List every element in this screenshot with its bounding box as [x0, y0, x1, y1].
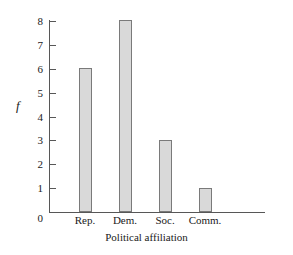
- y-axis-label-4-text: 4: [29, 112, 43, 123]
- bar-chart-figure: f 0 8 7 6 5 4 3 2 1 Rep. Dem. Soc. Comm.…: [0, 0, 293, 255]
- y-axis-label-8-text: 8: [29, 16, 43, 27]
- x-axis-line: [49, 212, 265, 213]
- y-axis-label-5-text: 5: [29, 88, 43, 99]
- y-axis-label-2: 2: [26, 159, 43, 170]
- y-axis-title: f: [16, 99, 20, 112]
- y-axis-label-3-text: 3: [29, 135, 43, 146]
- y-axis-label-7-text: 7: [29, 40, 43, 51]
- x-axis-label-comm: Comm.: [178, 214, 232, 226]
- x-axis-title: Political affiliation: [0, 231, 293, 243]
- bar-comm: [199, 188, 212, 212]
- y-axis-label-6-text: 6: [29, 64, 43, 75]
- y-axis-label-5: 5: [26, 88, 43, 99]
- y-axis-label-1: 1: [26, 183, 43, 194]
- bar-dem: [119, 20, 132, 212]
- y-axis-label-4: 4: [26, 112, 43, 123]
- plot-area: [49, 20, 265, 212]
- y-axis-origin-label: 0: [26, 213, 43, 224]
- y-axis-label-8: 8: [26, 16, 43, 27]
- y-axis-label-6: 6: [26, 64, 43, 75]
- y-axis-label-2-text: 2: [29, 159, 43, 170]
- y-axis-label-3: 3: [26, 135, 43, 146]
- y-axis-label-7: 7: [26, 40, 43, 51]
- bar-soc: [159, 140, 172, 212]
- bar-rep: [79, 68, 92, 212]
- y-axis-label-1-text: 1: [29, 183, 43, 194]
